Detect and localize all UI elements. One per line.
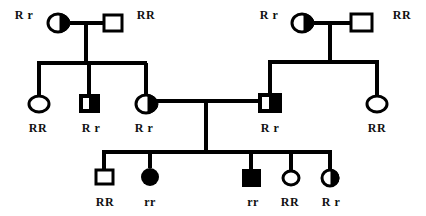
II-5-unaffected-female [367,96,387,112]
genotype-label-II-2: R r [82,121,101,136]
III-1-unaffected-male [96,170,113,184]
II-3-carrier-female [136,95,158,113]
I-2-unaffected-male [104,15,122,31]
III-3-affected-male [242,169,261,187]
I-3-carrier-female [292,14,314,32]
genotype-label-III-2: rr [144,195,156,210]
III-4-unaffected-female [283,171,299,185]
genotype-label-II-4: R r [261,121,280,136]
II-1-unaffected-female [29,96,49,112]
pedigree-diagram [0,0,426,216]
genotype-label-III-3: rr [247,195,259,210]
genotype-label-I-1: R r [15,8,34,23]
I-1-carrier-female [48,14,70,32]
genotype-label-I-2: RR [137,8,155,23]
genotype-label-III-4: RR [281,195,299,210]
III-2-affected-female [141,168,159,186]
II-2-carrier-male [80,95,99,112]
genotype-label-II-1: RR [29,121,47,136]
genotype-label-II-5: RR [368,121,386,136]
genotype-label-III-5: R r [322,195,341,210]
genotype-label-I-3: R r [260,8,279,23]
genotype-label-II-3: R r [135,121,154,136]
I-4-unaffected-male [351,14,372,31]
genotype-label-III-1: RR [96,195,114,210]
III-5-carrier-female [322,170,339,186]
genotype-label-I-4: RR [393,8,411,23]
II-4-carrier-male [259,94,281,112]
